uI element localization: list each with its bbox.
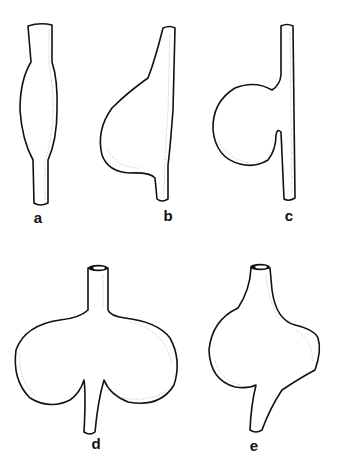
tube-opening-d-inner [93, 266, 105, 269]
aneurysm-diagram: a b c d e [0, 0, 337, 471]
panel-a [20, 24, 57, 205]
shape-c-side-sac [213, 25, 295, 201]
label-b: b [163, 207, 172, 224]
panel-d [15, 265, 177, 434]
shape-e-irregular [209, 268, 319, 432]
panel-e [209, 264, 319, 432]
shape-a-fusiform [20, 24, 57, 205]
label-a: a [34, 209, 43, 226]
label-c: c [285, 207, 293, 224]
label-e: e [250, 437, 258, 454]
shape-b-saccular [100, 27, 175, 202]
label-d: d [91, 435, 100, 452]
shape-d-bilobed [15, 268, 177, 434]
panel-c [213, 25, 295, 201]
panel-b [100, 27, 175, 202]
tube-opening-e-inner [255, 265, 267, 268]
